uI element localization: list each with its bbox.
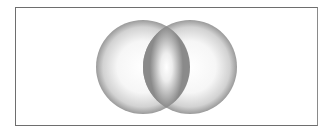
venn-diagram <box>0 0 334 137</box>
